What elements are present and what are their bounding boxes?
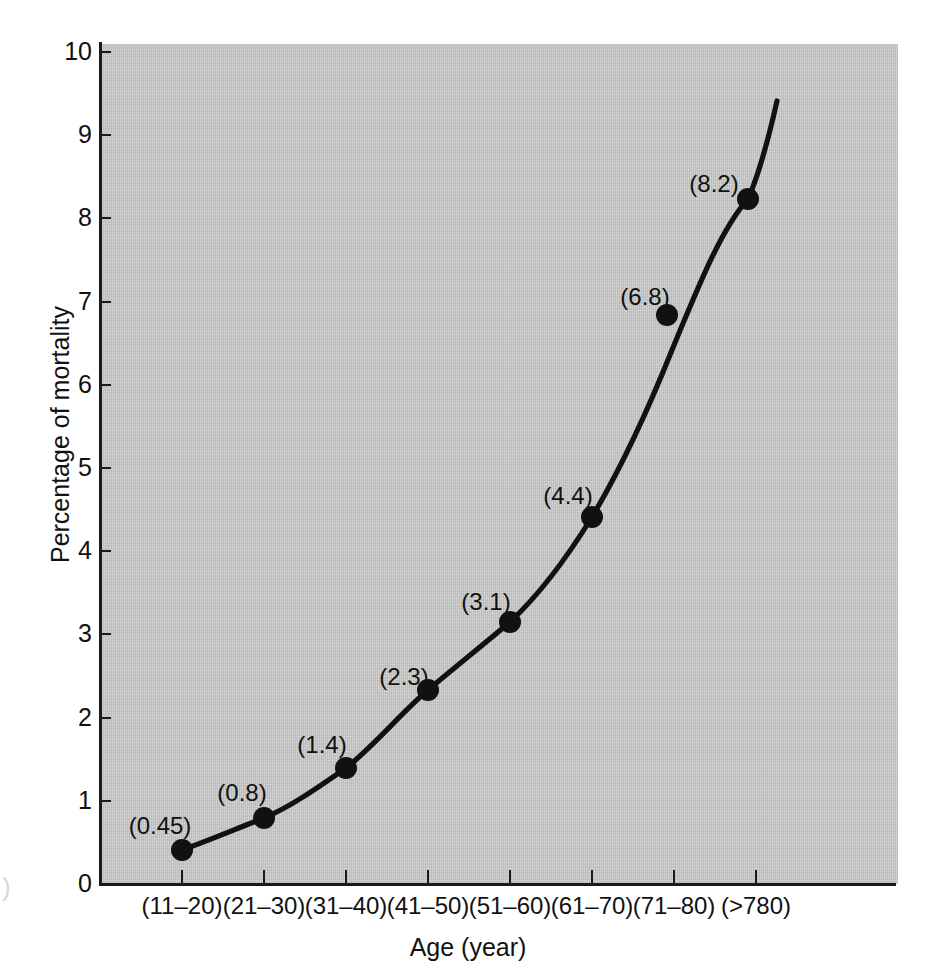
mortality-by-age-figure: 012345678910 (11–20)(21–30)(31–40)(41–50… — [0, 0, 936, 976]
x-axis-title: Age (year) — [0, 933, 936, 962]
data-point-markers — [171, 188, 759, 861]
data-point-marker — [581, 506, 603, 528]
data-point-value-label: (8.2) — [689, 172, 738, 196]
mortality-curve — [182, 101, 777, 850]
data-point-value-label: (6.8) — [620, 285, 669, 309]
data-point-value-label: (1.4) — [297, 733, 346, 757]
data-point-value-label: (0.45) — [129, 814, 192, 838]
data-point-marker — [171, 839, 193, 861]
data-point-marker — [335, 757, 357, 779]
data-point-value-label: (4.4) — [543, 484, 592, 508]
data-point-marker — [253, 807, 275, 829]
data-point-value-label: (3.1) — [461, 590, 510, 614]
data-point-value-label: (2.3) — [379, 665, 428, 689]
y-axis-title: Percentage of mortality — [46, 225, 75, 645]
data-point-value-label: (0.8) — [217, 781, 266, 805]
scan-edge-artifact: ) — [2, 872, 11, 902]
data-point-marker — [737, 188, 759, 210]
